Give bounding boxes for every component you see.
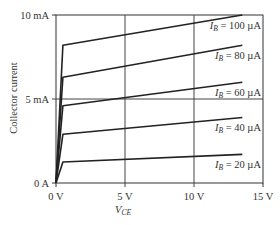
series-label: IB = 100 µA	[209, 20, 262, 33]
y-tick-label: 5 mA	[25, 94, 49, 105]
transistor-characteristic-chart: 0 A5 mA10 mA 0 V5 V10 V15 V IB = 100 µAI…	[0, 0, 280, 225]
x-axis-title-sub: CE	[121, 208, 131, 217]
series-labels: IB = 100 µAIB = 80 µAIB = 60 µAIB = 40 µ…	[209, 20, 262, 172]
y-tick-label: 10 mA	[20, 10, 49, 21]
x-tick-label: 5 V	[117, 191, 133, 202]
x-tick-label: 10 V	[184, 191, 205, 202]
x-tick-label: 0 V	[48, 191, 64, 202]
x-tick-labels: 0 V5 V10 V15 V	[48, 191, 273, 202]
series-label: IB = 20 µA	[214, 159, 261, 172]
x-tick-label: 15 V	[253, 191, 274, 202]
y-axis-title: Collector current	[8, 62, 19, 134]
x-axis-title: VCE	[115, 204, 131, 217]
series-label: IB = 40 µA	[214, 122, 261, 135]
y-tick-label: 0 A	[34, 178, 49, 189]
series-label: IB = 80 µA	[214, 50, 261, 63]
y-tick-labels: 0 A5 mA10 mA	[20, 10, 49, 189]
series-label: IB = 60 µA	[214, 87, 261, 100]
